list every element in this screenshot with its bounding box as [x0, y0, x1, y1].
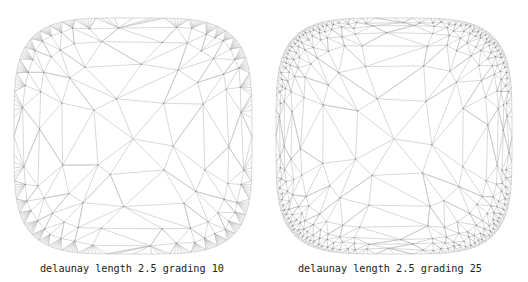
mesh-node	[281, 199, 282, 200]
mesh-node	[496, 206, 497, 207]
mesh-node	[297, 40, 298, 41]
mesh-node	[500, 91, 501, 92]
mesh-node	[322, 104, 323, 105]
mesh-node	[293, 179, 294, 180]
mesh-node	[487, 124, 488, 125]
mesh-node	[503, 104, 504, 105]
mesh-node	[290, 91, 291, 92]
mesh-edges	[276, 18, 512, 254]
mesh-node	[504, 67, 505, 68]
mesh-node	[482, 220, 483, 221]
mesh-node	[506, 78, 507, 79]
mesh-node	[293, 229, 294, 230]
mesh-node	[456, 81, 457, 82]
mesh-node	[433, 250, 434, 251]
mesh-node	[286, 58, 287, 59]
mesh-node	[305, 32, 306, 33]
mesh-node	[446, 236, 447, 237]
mesh-node	[496, 90, 497, 91]
mesh-node	[500, 57, 501, 58]
mesh-node	[492, 65, 493, 66]
mesh-node	[326, 221, 327, 222]
mesh-node	[354, 237, 355, 238]
mesh-node	[500, 54, 501, 55]
mesh-node	[319, 29, 320, 30]
mesh-node	[286, 63, 287, 64]
mesh-node	[484, 228, 485, 229]
mesh-node	[299, 57, 300, 58]
mesh-node	[508, 152, 509, 153]
mesh-node	[476, 204, 477, 205]
mesh-node	[501, 170, 502, 171]
mesh-node	[463, 31, 464, 32]
mesh-node	[490, 205, 491, 206]
mesh-node	[280, 167, 281, 168]
mesh-node	[327, 246, 328, 247]
mesh-node	[279, 91, 280, 92]
caption-grading-10: delaunay length 2.5 grading 10	[0, 263, 264, 274]
mesh-node	[432, 22, 433, 23]
mesh-node	[468, 236, 469, 237]
mesh-node	[480, 37, 481, 38]
mesh-node	[425, 101, 426, 102]
mesh-node	[490, 230, 491, 231]
mesh-node	[458, 186, 459, 187]
mesh-node	[427, 46, 428, 47]
mesh-node	[500, 71, 501, 72]
mesh-node	[356, 22, 357, 23]
mesh-node	[298, 46, 299, 47]
mesh-node	[447, 27, 448, 28]
mesh-node	[284, 209, 285, 210]
mesh-node	[327, 239, 328, 240]
mesh-node	[280, 103, 281, 104]
mesh-node	[503, 209, 504, 210]
caption-grading-25: delaunay length 2.5 grading 25	[258, 263, 522, 274]
mesh-node	[319, 238, 320, 239]
mesh-node	[291, 46, 292, 47]
mesh-node	[497, 220, 498, 221]
mesh-node	[469, 213, 470, 214]
mesh-node	[324, 31, 325, 32]
mesh-node	[342, 225, 343, 226]
mesh-node	[508, 91, 509, 92]
mesh-node	[497, 50, 498, 51]
mesh-node	[303, 229, 304, 230]
mesh-node	[469, 26, 470, 27]
mesh-node	[444, 242, 445, 243]
mesh-node	[292, 214, 293, 215]
mesh-node	[506, 193, 507, 194]
mesh-node	[504, 198, 505, 199]
mesh-node	[487, 58, 488, 59]
mesh-node	[472, 30, 473, 31]
mesh-node	[463, 240, 464, 241]
mesh-node	[440, 22, 441, 23]
mesh-node	[469, 33, 470, 34]
mesh-node	[481, 239, 482, 240]
mesh-node	[366, 248, 367, 249]
mesh-node	[359, 227, 360, 228]
mesh-node	[504, 204, 505, 205]
mesh-node	[333, 242, 334, 243]
mesh-node	[486, 213, 487, 214]
mesh-node	[287, 80, 288, 81]
mesh-node	[305, 196, 306, 197]
mesh-node	[503, 130, 504, 131]
mesh-node	[503, 62, 504, 63]
mesh-node	[353, 28, 354, 29]
mesh-node	[289, 200, 290, 201]
mesh-node	[288, 217, 289, 218]
mesh-node	[332, 248, 333, 249]
mesh-node	[279, 187, 280, 188]
mesh-node	[486, 39, 487, 40]
mesh-node	[312, 224, 313, 225]
mesh-node	[355, 33, 356, 34]
mesh-node	[313, 47, 314, 48]
mesh-node	[331, 29, 332, 30]
mesh-node	[290, 222, 291, 223]
mesh-node	[368, 204, 369, 205]
mesh-node	[285, 88, 286, 89]
mesh-node	[354, 242, 355, 243]
mesh-node	[494, 74, 495, 75]
mesh-node	[475, 36, 476, 37]
mesh-node	[459, 244, 460, 245]
